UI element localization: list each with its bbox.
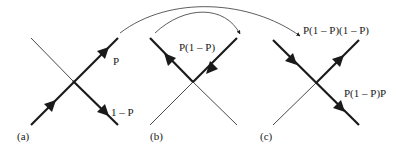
thin-line-right [193, 82, 237, 125]
thin-line [31, 38, 73, 81]
caption-c: (c) [260, 131, 272, 142]
thin-line-left [150, 82, 193, 125]
panel-c [273, 40, 359, 125]
label-a-1-minus-P: 1 – P [111, 107, 134, 118]
label-b-P-1-minus-P: P(1 – P) [179, 42, 215, 53]
caption-b: (b) [150, 131, 163, 142]
label-c-transmitted: P(1 – P)(1 – P) [303, 25, 369, 36]
label-a-P: P [113, 56, 119, 67]
thin-line-lower-left [273, 83, 316, 125]
arc-a-to-c [120, 7, 300, 36]
transition-arcs [120, 7, 300, 36]
label-c-reflected: P(1 – P)P [344, 88, 386, 99]
arc-b-to-b [155, 12, 240, 34]
thick-line-reflected [73, 81, 118, 125]
panel-a [31, 38, 118, 125]
caption-a: (a) [17, 131, 29, 142]
